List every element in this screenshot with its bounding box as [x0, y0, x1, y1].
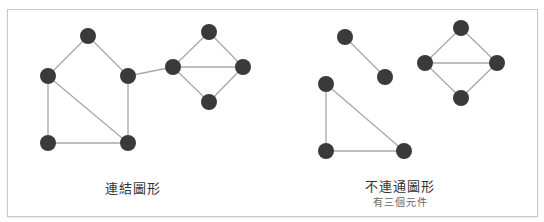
node [337, 29, 353, 45]
node [201, 24, 217, 40]
node [417, 55, 433, 71]
node [396, 143, 412, 159]
edge [88, 36, 128, 76]
caption-disconnected: 不連通圖形 [350, 176, 450, 195]
node [120, 68, 136, 84]
node [489, 55, 505, 71]
node [120, 135, 136, 151]
subcaption-components: 有三個元件 [350, 194, 450, 209]
edge [48, 36, 88, 76]
node [453, 20, 469, 36]
caption-connected: 連結圖形 [88, 178, 178, 197]
node [80, 28, 96, 44]
node [201, 94, 217, 110]
edge [326, 84, 404, 151]
node [318, 76, 334, 92]
nodes-layer [40, 20, 505, 159]
node [318, 143, 334, 159]
node [40, 135, 56, 151]
node [453, 90, 469, 106]
node [377, 69, 393, 85]
edge [345, 37, 385, 77]
node [235, 59, 251, 75]
edges-layer [48, 28, 497, 151]
node [40, 68, 56, 84]
node [165, 59, 181, 75]
edge [48, 76, 128, 143]
graphs-canvas [0, 0, 544, 222]
